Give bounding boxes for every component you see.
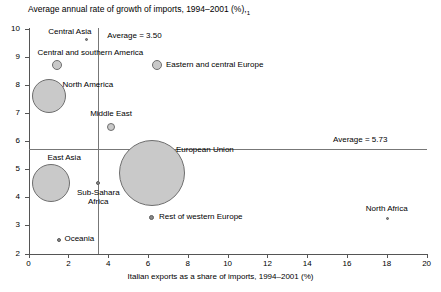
y-tick-label-7: 7	[4, 108, 20, 117]
bubble-middle-east[interactable]	[107, 123, 115, 131]
bubble-north-africa[interactable]	[386, 217, 389, 220]
x-tick-label-18: 18	[377, 259, 397, 268]
x-tick-2	[68, 254, 69, 258]
x-tick-18	[387, 254, 388, 258]
point-label-eastern-and-central-europe: Eastern and central Europe	[166, 60, 263, 69]
x-tick-0	[29, 254, 30, 258]
x-tick-14	[307, 254, 308, 258]
point-label-middle-east: Middle East	[90, 109, 132, 118]
y-tick-8	[25, 85, 29, 86]
point-label-sub-sahara-africa: Sub-Sahara Africa	[76, 188, 120, 206]
x-tick-label-20: 20	[417, 259, 437, 268]
y-tick-9	[25, 57, 29, 58]
x-tick-label-10: 10	[218, 259, 238, 268]
x-tick-10	[228, 254, 229, 258]
x-tick-label-12: 12	[257, 259, 277, 268]
x-tick-16	[347, 254, 348, 258]
point-label-rest-of-western-europe: Rest of western Europe	[159, 212, 243, 221]
y-axis-line	[29, 28, 30, 254]
x-axis-title: Italian exports as a share of imports, 1…	[0, 272, 441, 281]
x-average-reference-line	[98, 28, 99, 254]
y-tick-label-6: 6	[4, 136, 20, 145]
y-tick-3	[25, 225, 29, 226]
point-label-central-and-southern-america: Central and southern America	[37, 48, 143, 57]
point-label-central-asia: Central Asia	[48, 27, 91, 36]
bubble-central-and-southern-america[interactable]	[52, 60, 62, 70]
x-tick-12	[267, 254, 268, 258]
x-tick-label-14: 14	[297, 259, 317, 268]
point-label-north-america: North America	[62, 80, 113, 89]
bubble-north-america[interactable]	[32, 79, 66, 113]
y-tick-5	[25, 169, 29, 170]
x-tick-label-2: 2	[58, 259, 78, 268]
y-tick-6	[25, 141, 29, 142]
point-label-oceania: Oceania	[64, 234, 94, 243]
y-tick-7	[25, 113, 29, 114]
point-label-east-asia: East Asia	[47, 153, 80, 162]
x-tick-label-16: 16	[337, 259, 357, 268]
y-tick-label-5: 5	[4, 164, 20, 173]
y-axis-title-note: 1	[247, 10, 250, 16]
bubble-east-asia[interactable]	[32, 164, 70, 202]
bubble-central-asia[interactable]	[85, 38, 88, 41]
x-tick-label-6: 6	[138, 259, 158, 268]
x-tick-label-8: 8	[178, 259, 198, 268]
y-average-label: Average = 5.73	[333, 135, 387, 144]
x-tick-4	[108, 254, 109, 258]
x-tick-label-0: 0	[19, 259, 39, 268]
x-tick-20	[427, 254, 428, 258]
y-tick-label-8: 8	[4, 80, 20, 89]
point-label-european-union: European Union	[176, 145, 234, 154]
x-tick-6	[148, 254, 149, 258]
x-tick-8	[188, 254, 189, 258]
y-tick-10	[25, 29, 29, 30]
x-tick-label-4: 4	[98, 259, 118, 268]
y-tick-label-10: 10	[4, 24, 20, 33]
bubble-eastern-and-central-europe[interactable]	[152, 60, 162, 70]
y-tick-label-9: 9	[4, 52, 20, 61]
y-axis-title-text: Average annual rate of growth of imports…	[28, 4, 247, 14]
bubble-chart: Average annual rate of growth of imports…	[0, 0, 441, 292]
bubble-sub-sahara-africa[interactable]	[96, 181, 100, 185]
x-average-label: Average = 3.50	[107, 31, 161, 40]
y-tick-label-2: 2	[4, 249, 20, 258]
y-tick-4	[25, 197, 29, 198]
y-axis-title: Average annual rate of growth of imports…	[28, 4, 250, 16]
y-tick-label-3: 3	[4, 220, 20, 229]
y-tick-label-4: 4	[4, 192, 20, 201]
bubble-rest-of-western-europe[interactable]	[149, 215, 154, 220]
bubble-oceania[interactable]	[57, 238, 61, 242]
point-label-north-africa: North Africa	[366, 204, 408, 213]
